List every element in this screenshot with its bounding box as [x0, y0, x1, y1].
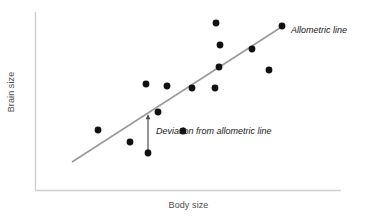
axes-group [35, 12, 341, 191]
data-point [249, 46, 256, 53]
x-axis-label: Body size [0, 200, 377, 210]
data-point [279, 23, 286, 30]
allometry-scatter-figure: Allometric line Deviation from allometri… [0, 0, 377, 219]
y-axis-label: Brain size [6, 62, 16, 122]
deviation-annotation: Deviation from allometric line [156, 126, 272, 136]
data-point [164, 83, 171, 90]
data-point [212, 85, 219, 92]
data-point [213, 20, 220, 27]
data-point [145, 150, 152, 157]
data-point [95, 127, 102, 134]
data-point [143, 81, 150, 88]
deviation-indicator-group [146, 114, 151, 155]
allometric-line-annotation: Allometric line [291, 25, 347, 35]
data-point [217, 42, 224, 49]
data-point [216, 64, 223, 71]
data-point [127, 139, 134, 146]
data-point [189, 85, 196, 92]
data-point [155, 109, 162, 116]
data-point [266, 67, 273, 74]
